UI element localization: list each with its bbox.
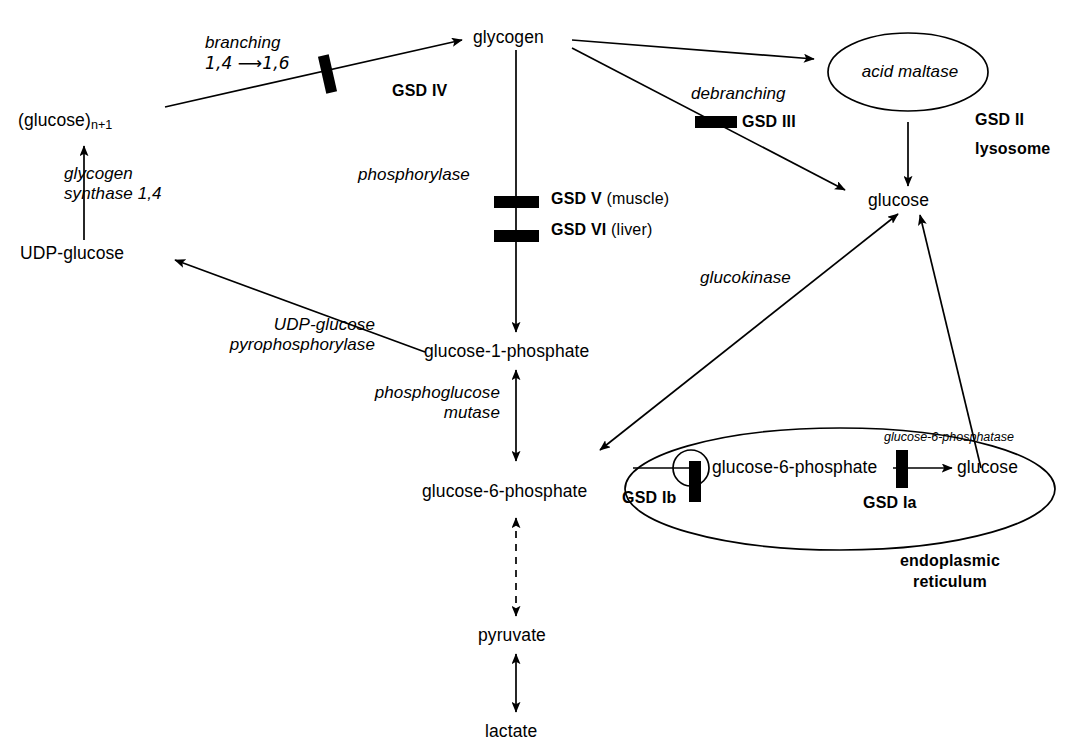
label-endoplasmic-reticulum: endoplasmic reticulum: [860, 551, 1040, 593]
label-glucose-6-phosphatase: glucose-6-phosphatase: [884, 430, 1014, 445]
label-gsd-iv: GSD IV: [392, 82, 447, 101]
label-gsd-ia: GSD Ia: [863, 494, 917, 513]
label-glucokinase: glucokinase: [700, 268, 791, 288]
block-bar-gsd-ia: [896, 450, 908, 488]
label-debranching-enzyme: debranching: [691, 84, 786, 104]
label-phosphoglucose-mutase: phosphoglucose mutase: [310, 383, 500, 423]
label-phosphorylase: phosphorylase: [358, 165, 470, 185]
label-glucose-n-plus-1: (glucose)n+1: [18, 110, 112, 133]
label-udp-glucose: UDP-glucose: [20, 243, 124, 264]
arrow-glycogen-to-lysosome: [572, 40, 814, 59]
label-lactate: lactate: [485, 721, 537, 742]
label-acid-maltase: acid maltase: [855, 62, 965, 82]
block-bar-gsd-ib: [689, 461, 701, 502]
block-bar-gsd-iv: [318, 54, 337, 93]
label-gsd-vi: GSD VI (liver): [551, 221, 653, 240]
label-glucose-cytosol: glucose: [868, 190, 929, 211]
pathway-diagram-canvas: (glucose)n+1 UDP-glucose glycogen syntha…: [0, 0, 1073, 743]
label-gsd-ib: GSD Ib: [622, 489, 677, 508]
block-bar-gsd-v: [494, 196, 539, 208]
block-bar-gsd-iii: [695, 116, 737, 128]
label-lysosome: lysosome: [975, 139, 1050, 160]
label-branching-enzyme: branching 1,4 ⟶1,6: [205, 33, 290, 73]
block-bar-gsd-vi: [494, 230, 539, 242]
label-glycogen: glycogen: [473, 27, 544, 48]
label-glucose-er: glucose: [957, 457, 1018, 478]
label-udp-glucose-pyrophosphorylase: UDP-glucose pyrophosphorylase: [150, 315, 375, 355]
label-gsd-iii: GSD III: [742, 113, 796, 132]
label-glucose-6-phosphate-er: glucose-6-phosphate: [712, 457, 877, 478]
label-glucose-1-phosphate: glucose-1-phosphate: [424, 341, 589, 362]
label-glycogen-synthase: glycogen synthase 1,4: [64, 164, 162, 204]
label-pyruvate: pyruvate: [478, 625, 546, 646]
arrow-glucokinase: [600, 214, 898, 450]
label-gsd-ii: GSD II: [975, 111, 1024, 130]
label-glucose-6-phosphate-cytosol: glucose-6-phosphate: [422, 481, 587, 502]
label-gsd-v: GSD V (muscle): [551, 190, 669, 209]
